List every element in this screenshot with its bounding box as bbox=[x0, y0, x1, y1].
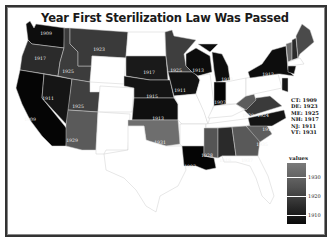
label-AL: 1919 bbox=[219, 158, 231, 163]
state-AR bbox=[180, 124, 206, 146]
label-SC: 1935 bbox=[256, 142, 268, 147]
legend-label-1920: 1920 bbox=[308, 193, 321, 199]
state-SD bbox=[126, 56, 168, 80]
legend-label-1930: 1930 bbox=[308, 174, 321, 180]
state-NJ bbox=[282, 78, 288, 92]
label-IA: 1911 bbox=[174, 88, 186, 93]
label-NE: 1915 bbox=[146, 94, 158, 99]
label-WA: 1909 bbox=[40, 31, 52, 36]
label-OK: 1931 bbox=[154, 140, 166, 145]
label-OR: 1917 bbox=[34, 56, 46, 61]
label-NC: 1919 bbox=[262, 127, 274, 132]
label-CA: 1909 bbox=[24, 117, 36, 122]
state-AZ bbox=[66, 110, 98, 150]
legend-tick-1920 bbox=[287, 196, 306, 197]
label-UT: 1925 bbox=[72, 104, 84, 109]
state-NM bbox=[96, 112, 130, 154]
state-CO bbox=[98, 86, 134, 112]
state-WY bbox=[90, 56, 126, 84]
label-KS: 1913 bbox=[152, 116, 164, 121]
label-WV: 1929 bbox=[242, 113, 254, 118]
label-WI: 1913 bbox=[192, 68, 204, 73]
label-MT: 1923 bbox=[93, 47, 105, 52]
note-VT: VT: 1931 bbox=[291, 129, 319, 135]
note-DE: DE: 1923 bbox=[291, 103, 319, 109]
label-SD: 1917 bbox=[143, 70, 155, 75]
label-MS: 1928 bbox=[201, 153, 213, 158]
label-GA: 1937 bbox=[241, 158, 253, 163]
label-NV: 1911 bbox=[42, 96, 54, 101]
label-MN: 1925 bbox=[170, 68, 182, 73]
label-ID: 1925 bbox=[62, 69, 74, 74]
legend-label-1910: 1910 bbox=[308, 212, 321, 218]
label-IN: 1907 bbox=[214, 100, 226, 105]
legend-tick-1930 bbox=[287, 177, 306, 178]
us-choropleth-map: 1909 1917 1909 1925 1911 1923 1925 1929 … bbox=[0, 0, 330, 240]
label-LA: 1907 bbox=[184, 164, 196, 169]
state-ME bbox=[296, 24, 314, 58]
northeast-years-note: CT: 1909 DE: 1923 ME: 1925 NH: 1917 NJ: … bbox=[291, 97, 319, 135]
legend-tick-1910 bbox=[287, 215, 306, 216]
label-AZ: 1929 bbox=[66, 138, 78, 143]
state-FL bbox=[222, 156, 274, 204]
state-ND bbox=[126, 32, 166, 56]
legend-title: values bbox=[289, 155, 308, 161]
label-NY: 1912 bbox=[262, 72, 274, 77]
label-MI: 1913 bbox=[221, 77, 233, 82]
note-NH: NH: 1917 bbox=[291, 116, 319, 122]
label-VA: 1924 bbox=[257, 113, 269, 118]
